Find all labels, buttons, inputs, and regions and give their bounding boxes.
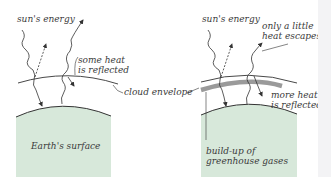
reflected-ray-right — [221, 44, 232, 77]
earth-surface-right — [201, 104, 297, 177]
reflected-heat-left — [68, 77, 74, 86]
label-ghg-2: greenhouse gases — [206, 156, 288, 166]
right-panel: sun's energy only a little heat escapes … — [201, 14, 322, 177]
label-cloud-envelope: cloud envelope — [124, 87, 193, 97]
page-edge — [318, 0, 331, 177]
greenhouse-gas-band — [201, 82, 282, 90]
outgoing-heat-right — [246, 43, 262, 104]
reflected-heat-right — [254, 76, 262, 96]
label-more-heat-2: is reflected — [271, 100, 322, 110]
leader-escapes — [262, 44, 288, 51]
sun-ray-right — [208, 30, 226, 106]
reflected-ray-left — [35, 44, 46, 77]
label-sun-left: sun's energy — [17, 14, 76, 24]
sun-ray-left — [22, 30, 42, 106]
leader-cloud-left — [113, 85, 123, 93]
left-panel: sun's energy some heat is reflected Eart… — [16, 14, 129, 177]
label-more-heat-1: more heat — [271, 90, 318, 100]
label-reflected-left-2: is reflected — [78, 65, 129, 75]
label-escapes-2: heat escapes — [262, 31, 321, 41]
label-sun-right: sun's energy — [202, 14, 261, 24]
label-reflected-left-1: some heat — [78, 55, 125, 65]
label-earth-surface: Earth's surface — [30, 141, 100, 151]
label-ghg-1: build-up of — [206, 146, 257, 156]
cloud-label-group: cloud envelope — [113, 85, 199, 97]
greenhouse-diagram: sun's energy some heat is reflected Eart… — [0, 0, 331, 177]
label-escapes-1: only a little — [262, 21, 313, 31]
